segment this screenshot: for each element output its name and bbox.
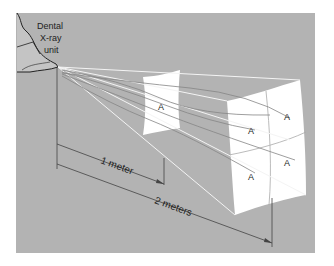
far-region-label-1: A [248, 126, 254, 136]
far-region-label-3: A [248, 172, 254, 182]
near-region-label: A [158, 102, 164, 112]
far-region-label-4: A [284, 158, 290, 168]
source-label-line-2: X-ray [40, 33, 62, 43]
source-label-line-3: unit [44, 45, 59, 55]
source-label-line-1: Dental [37, 21, 63, 31]
far-region-label-2: A [284, 112, 290, 122]
inverse-square-diagram: Dental X-ray unit A A A A A [0, 0, 334, 266]
far-screen [227, 80, 306, 215]
